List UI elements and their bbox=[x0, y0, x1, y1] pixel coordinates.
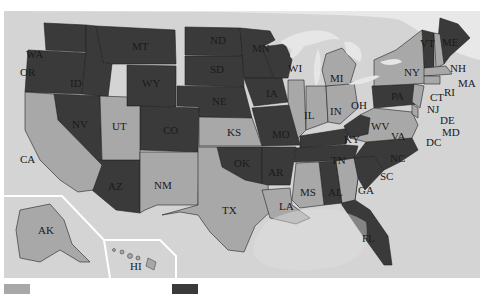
state-IN[interactable] bbox=[306, 86, 328, 130]
lake-michigan bbox=[314, 48, 321, 86]
label-VA: VA bbox=[391, 131, 405, 142]
label-TN: TN bbox=[331, 155, 346, 166]
label-VT: VT bbox=[420, 38, 435, 49]
label-IA: IA bbox=[266, 88, 278, 99]
label-NJ: NJ bbox=[427, 104, 439, 115]
label-NH: NH bbox=[450, 63, 466, 74]
label-IN: IN bbox=[330, 106, 342, 117]
label-NC: NC bbox=[390, 153, 405, 164]
legend-swatch-light bbox=[4, 284, 30, 294]
label-KY: KY bbox=[344, 134, 360, 145]
label-HI: HI bbox=[130, 261, 142, 272]
us-map bbox=[4, 11, 480, 278]
label-FL: FL bbox=[362, 233, 375, 244]
state-CT[interactable] bbox=[424, 76, 440, 84]
label-MN: MN bbox=[252, 43, 270, 54]
state-WA[interactable] bbox=[44, 23, 86, 52]
map-frame: WA OR CA ID NV MT WY UT AZ CO NM ND SD N… bbox=[4, 11, 480, 278]
label-WA: WA bbox=[26, 49, 43, 60]
label-MT: MT bbox=[132, 41, 149, 52]
label-TX: TX bbox=[222, 205, 237, 216]
label-CA: CA bbox=[20, 154, 35, 165]
label-CT: CT bbox=[430, 92, 444, 103]
label-NY: NY bbox=[404, 67, 420, 78]
label-NE: NE bbox=[212, 96, 227, 107]
label-SD: SD bbox=[210, 64, 224, 75]
label-AR: AR bbox=[268, 167, 283, 178]
label-MO: MO bbox=[272, 129, 290, 140]
label-CO: CO bbox=[163, 125, 178, 136]
label-NV: NV bbox=[72, 119, 88, 130]
label-PA: PA bbox=[391, 91, 404, 102]
label-MI: MI bbox=[330, 73, 343, 84]
label-ME: ME bbox=[442, 37, 459, 48]
label-KS: KS bbox=[227, 127, 241, 138]
label-ID: ID bbox=[70, 78, 82, 89]
label-AL: AL bbox=[328, 187, 343, 198]
label-ND: ND bbox=[210, 35, 226, 46]
label-UT: UT bbox=[112, 121, 127, 132]
label-SC: SC bbox=[380, 171, 393, 182]
label-LA: LA bbox=[279, 201, 294, 212]
label-AK: AK bbox=[38, 225, 54, 236]
label-IL: IL bbox=[304, 110, 314, 121]
label-OH: OH bbox=[351, 100, 367, 111]
label-NM: NM bbox=[154, 180, 172, 191]
label-AZ: AZ bbox=[108, 181, 123, 192]
legend bbox=[0, 284, 484, 294]
label-MA: MA bbox=[458, 78, 476, 89]
label-WI: WI bbox=[288, 63, 302, 74]
label-OR: OR bbox=[20, 67, 35, 78]
label-GA: GA bbox=[358, 185, 374, 196]
state-MA[interactable] bbox=[424, 66, 452, 76]
label-OK: OK bbox=[234, 158, 250, 169]
label-MS: MS bbox=[300, 187, 316, 198]
label-WY: WY bbox=[142, 78, 160, 89]
state-MS[interactable] bbox=[292, 162, 324, 208]
label-MD: MD bbox=[442, 127, 460, 138]
label-RI: RI bbox=[444, 87, 455, 98]
label-DC: DC bbox=[426, 137, 441, 148]
label-DE: DE bbox=[440, 115, 455, 126]
label-WV: WV bbox=[371, 121, 389, 132]
legend-swatch-dark bbox=[172, 284, 198, 294]
